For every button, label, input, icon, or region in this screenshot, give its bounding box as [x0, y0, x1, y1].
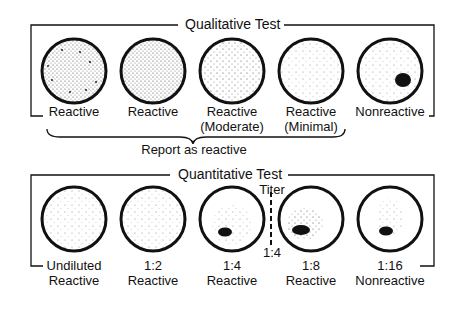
titer-label: Titer: [258, 182, 286, 197]
quantitative-title: Quantitative Test: [174, 166, 286, 182]
quant-label-3: 1:4 Reactive: [197, 258, 267, 288]
quant-label-5: 1:16 Nonreactive: [354, 258, 426, 288]
quantitative-circles: [42, 187, 422, 251]
qual-label-5: Nonreactive: [354, 104, 426, 119]
qualitative-circles: [42, 39, 422, 103]
qual-label-3: Reactive (Moderate): [197, 104, 267, 134]
report-as-reactive-label: Report as reactive: [138, 142, 250, 157]
qual-label-1: Reactive: [44, 104, 104, 119]
qual-label-2: Reactive: [123, 104, 183, 119]
quant-label-4: 1:8 Reactive: [276, 258, 346, 288]
quant-label-1: Undiluted Reactive: [39, 258, 109, 288]
quant-label-2: 1:2 Reactive: [118, 258, 188, 288]
qual-label-4: Reactive (Minimal): [276, 104, 346, 134]
qualitative-title: Qualitative Test: [181, 16, 284, 32]
